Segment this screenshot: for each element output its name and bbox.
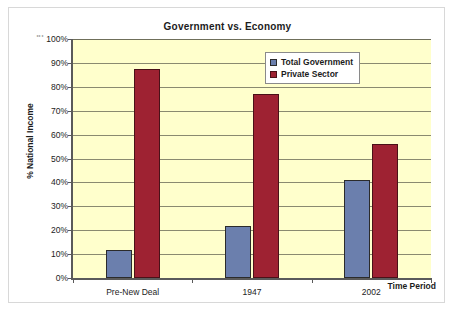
y-tick-mark [68,87,73,88]
y-tick-label: 30% [51,201,68,211]
x-tick-label: Pre-New Deal [106,287,159,297]
gridline [73,63,431,64]
x-tick-label: 2002 [362,287,381,297]
gridline [73,111,431,112]
y-tick-mark [68,206,73,207]
y-tick-label: 100% [46,34,68,44]
bar [344,180,370,278]
bar [106,250,132,278]
x-tick-mark [73,278,74,283]
legend-item: Total Government [270,56,353,68]
gridline [73,39,431,40]
y-tick-label: 90% [51,58,68,68]
y-tick-label: 70% [51,106,68,116]
plot-area: 100%90%80%70%60%50%40%30%20%10%0% Pre-Ne… [71,39,431,280]
x-tick-label: 1947 [243,287,262,297]
legend-item: Private Sector [270,68,353,80]
y-tick-label: 50% [51,154,68,164]
chart-legend: Total GovernmentPrivate Sector [265,52,360,84]
y-axis-title: % National Income [25,76,35,206]
y-tick-label: 20% [51,225,68,235]
y-tick-mark [68,159,73,160]
y-tick-mark [68,111,73,112]
bar [225,226,251,278]
x-axis-title: Time Period [388,281,437,291]
legend-swatch-icon [270,71,277,78]
legend-swatch-icon [270,59,277,66]
bar [372,144,398,278]
y-tick-mark [68,230,73,231]
y-tick-mark [68,135,73,136]
y-tick-label: 80% [51,82,68,92]
chart-container: Government vs. Economy ⋮ % National Inco… [8,7,445,303]
y-tick-label: 10% [51,249,68,259]
bar [134,69,160,278]
x-tick-mark [192,278,193,283]
chart-title: Government vs. Economy [9,21,446,32]
y-tick-mark [68,63,73,64]
y-tick-label: 40% [51,177,68,187]
gridline [73,135,431,136]
y-tick-label: 60% [51,130,68,140]
x-tick-mark [312,278,313,283]
legend-label: Private Sector [281,69,338,79]
y-tick-mark [68,39,73,40]
vertical-ellipsis-icon: ⋮ [35,31,44,40]
y-tick-mark [68,182,73,183]
y-tick-mark [68,254,73,255]
y-tick-label: 0% [56,273,68,283]
bar [253,94,279,279]
legend-label: Total Government [281,57,353,67]
gridline [73,87,431,88]
